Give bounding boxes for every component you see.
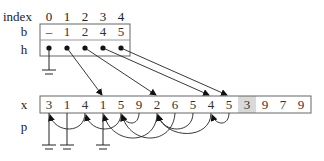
patience-sort-diagram: index 0 1 2 3 4 b h – 1 2 4 5 x p: [0, 0, 324, 161]
x-6: 2: [154, 97, 161, 112]
b-4: 5: [118, 24, 125, 39]
x-5: 9: [136, 97, 143, 112]
x-14: 9: [298, 97, 305, 112]
b-0: –: [45, 24, 53, 39]
b-3: 4: [100, 24, 107, 39]
x-11: 3: [244, 97, 251, 112]
x-0: 3: [46, 97, 53, 112]
b-2: 2: [82, 24, 89, 39]
x-8: 5: [190, 97, 197, 112]
index-1: 1: [64, 9, 71, 24]
x-label: x: [21, 97, 28, 112]
x-9: 4: [208, 97, 215, 112]
x-10: 5: [226, 97, 233, 112]
index-label: index: [3, 9, 32, 24]
index-3: 3: [100, 9, 107, 24]
p-label: p: [21, 119, 28, 134]
x-2: 4: [82, 97, 89, 112]
h-label: h: [21, 42, 28, 57]
x-4: 5: [118, 97, 125, 112]
b-label: b: [21, 24, 28, 39]
b-1: 1: [64, 24, 71, 39]
top-table: index 0 1 2 3 4 b h – 1 2 4 5: [3, 9, 130, 57]
index-2: 2: [82, 9, 89, 24]
x-1: 1: [64, 97, 71, 112]
h0-ground: [42, 48, 56, 74]
index-0: 0: [46, 9, 53, 24]
x-7: 6: [172, 97, 179, 112]
index-4: 4: [118, 9, 125, 24]
x-3: 1: [100, 97, 107, 112]
x-12: 9: [262, 97, 269, 112]
p-grounds: [42, 113, 110, 149]
p-links: [50, 113, 229, 138]
x-13: 7: [280, 97, 287, 112]
h-pointers: [67, 48, 227, 95]
